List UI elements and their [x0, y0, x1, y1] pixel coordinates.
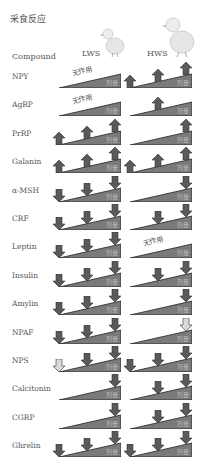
hws-cell: 剂量 [130, 115, 192, 145]
compound-label: NPAF [12, 328, 34, 337]
arrow-down-icon [109, 202, 121, 215]
arrow-down-icon [81, 237, 93, 250]
header-hws: HWS [147, 49, 168, 58]
arrow-up-icon [180, 117, 192, 130]
arrow-down-icon [124, 357, 136, 370]
arrow-down-icon [81, 266, 93, 279]
arrow-up-icon [109, 117, 121, 130]
arrow-down-icon [152, 408, 164, 421]
arrow-up-icon [81, 124, 93, 137]
arrow-down-icon [152, 266, 164, 279]
lws-cell: 剂量 [59, 115, 121, 145]
dose-label: 剂量 [177, 447, 189, 456]
arrow-down-icon [180, 429, 192, 442]
lws-cell: 剂量 [59, 143, 121, 173]
arrow-down-icon [109, 372, 121, 385]
lws-cell: 剂量 [59, 399, 121, 429]
compound-label: CRF [12, 214, 29, 223]
lws-cell: 剂量 [59, 200, 121, 230]
arrow-down-icon [53, 215, 65, 228]
compound-label: CGRP [12, 413, 34, 422]
hws-cell: 剂量 [130, 58, 192, 88]
arrow-up-icon [152, 67, 164, 80]
arrow-down-icon [109, 316, 121, 329]
figure-title: 采食反应 [10, 12, 46, 25]
arrow-down-icon [53, 243, 65, 256]
compound-label: AgRP [12, 100, 33, 109]
arrow-down-icon [53, 272, 65, 285]
arrow-down-icon [109, 174, 121, 187]
arrow-up-icon [180, 60, 192, 73]
arrow-down-icon [180, 372, 192, 385]
arrow-down-icon [53, 357, 65, 370]
arrow-down-icon [53, 329, 65, 342]
hws-cell: 剂量 [130, 143, 192, 173]
compound-label: PrRP [12, 129, 31, 138]
arrow-down-icon [180, 259, 192, 272]
arrow-down-icon [152, 209, 164, 222]
arrow-down-icon [152, 436, 164, 449]
arrow-down-icon [180, 401, 192, 414]
arrow-up-icon [152, 95, 164, 108]
arrow-down-icon [109, 344, 121, 357]
lws-cell: 剂量 [59, 228, 121, 258]
arrow-down-icon [109, 287, 121, 300]
arrow-down-icon [152, 379, 164, 392]
lws-cell: 剂量无作用 [59, 86, 121, 116]
hws-cell: 剂量 [130, 370, 192, 400]
arrow-down-icon [81, 294, 93, 307]
arrow-down-icon [124, 442, 136, 455]
arrow-down-icon [152, 351, 164, 364]
hws-cell: 剂量 [130, 342, 192, 372]
header-lws: LWS [82, 49, 100, 58]
compound-label: Amylin [12, 299, 38, 308]
hws-cell: 剂量 [130, 86, 192, 116]
compound-label: Calcitonin [12, 384, 51, 393]
hws-cell: 剂量 [130, 200, 192, 230]
arrow-down-icon [180, 202, 192, 215]
arrow-down-icon [81, 351, 93, 364]
compound-label: Leptin [12, 242, 36, 251]
arrow-up-icon [124, 73, 136, 86]
compound-label: Insulin [12, 271, 38, 280]
arrow-up-icon [124, 158, 136, 171]
arrow-up-icon [152, 152, 164, 165]
arrow-down-icon [53, 442, 65, 455]
compound-label: Ghrelin [12, 441, 40, 450]
compound-label: NPY [12, 72, 29, 81]
lws-cell: 剂量 [59, 172, 121, 202]
arrow-down-icon [81, 436, 93, 449]
lws-cell: 剂量 [59, 285, 121, 315]
arrow-down-icon [109, 429, 121, 442]
compound-label: α-MSH [12, 186, 39, 195]
dose-label: 剂量 [106, 447, 118, 456]
hws-cell: 剂量 [130, 285, 192, 315]
arrow-down-icon [81, 323, 93, 336]
lws-cell: 剂量 [59, 427, 121, 457]
arrow-down-icon [180, 174, 192, 187]
lws-cell: 剂量 [59, 370, 121, 400]
arrow-up-icon [53, 130, 65, 143]
hws-cell: 剂量 [130, 314, 192, 344]
compound-label: Galanin [12, 157, 41, 166]
arrow-down-icon [180, 287, 192, 300]
hws-cell: 剂量 [130, 172, 192, 202]
arrow-down-icon [180, 344, 192, 357]
lws-cell: 剂量 [59, 314, 121, 344]
arrow-up-icon [180, 145, 192, 158]
arrow-up-icon [109, 145, 121, 158]
arrow-down-icon [180, 316, 192, 329]
arrow-down-icon [109, 401, 121, 414]
compound-label: NPS [12, 356, 29, 365]
arrow-down-icon [53, 300, 65, 313]
lws-cell: 剂量无作用 [59, 58, 121, 88]
arrow-up-icon [53, 158, 65, 171]
chick-small-icon [98, 26, 128, 58]
arrow-down-icon [53, 187, 65, 200]
header-compound: Compound [12, 52, 56, 61]
arrow-up-icon [81, 152, 93, 165]
hws-cell: 剂量无作用 [130, 228, 192, 258]
arrow-down-icon [109, 230, 121, 243]
hws-cell: 剂量 [130, 427, 192, 457]
arrow-down-icon [81, 181, 93, 194]
